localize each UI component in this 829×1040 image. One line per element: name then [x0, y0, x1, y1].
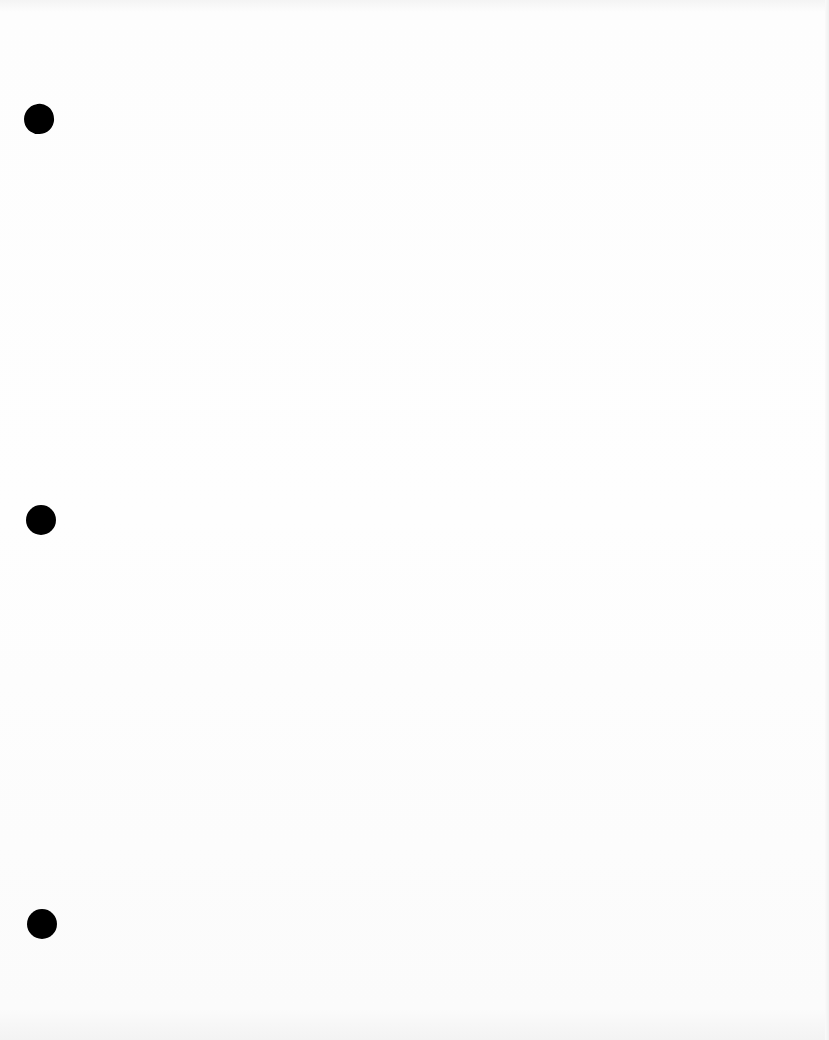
- page-edge: [825, 0, 829, 1040]
- punch-hole-bottom: [27, 909, 57, 939]
- blank-page: [0, 0, 829, 1040]
- punch-hole-top: [22, 102, 57, 137]
- punch-hole-middle: [26, 505, 56, 535]
